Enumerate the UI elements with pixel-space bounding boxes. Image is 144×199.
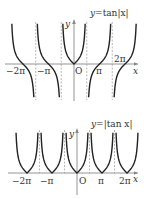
top-x-label: x [133,66,138,76]
bottom-tick-2pi: 2π [119,176,131,186]
bottom-tick-m2pi: −2π [12,176,31,186]
curve-branch [12,24,34,98]
graph-canvas: y x O −2π −π π 2π y=tan|x| y x O −2π −π … [0,0,144,199]
top-origin-label: O [75,66,82,76]
curve-branch [37,24,59,98]
top-tick-m2pi: −2π [6,66,25,76]
bottom-y-arrow-icon [75,128,79,133]
top-y-label: y [64,19,71,29]
bottom-equation: y=|tan x| [90,119,132,130]
top-equation: y=tan|x| [89,8,129,19]
top-eq-abs: |x| [117,8,128,19]
bottom-y-label: y [68,129,75,139]
curve-branch [89,24,111,98]
top-graph: y x O −2π −π π 2π y=tan|x| [5,8,138,101]
bottom-eq-mid: = [96,119,104,129]
bottom-graph: y x O −2π −π π 2π y=|tan x| [8,119,138,195]
curve-branch [41,133,63,173]
curve-branch [116,133,138,173]
curve-branch [16,133,38,173]
bottom-origin-label: O [79,176,86,186]
top-tick-pi: π [96,66,102,76]
top-tick-2pi: 2π [114,54,126,64]
curve-branch [91,133,113,173]
top-eq-mid: =tan [95,8,118,18]
top-tick-mpi: −π [37,66,51,76]
bottom-tick-mpi: −π [40,176,54,186]
bottom-x-label: x [133,174,138,184]
top-y-arrow-icon [72,19,76,24]
bottom-tick-pi: π [98,176,104,186]
bottom-eq-abs: |tan x| [104,119,133,130]
